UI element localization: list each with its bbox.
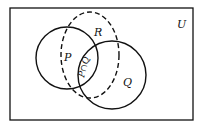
universe-rectangle (10, 8, 193, 120)
set-r-label: R (93, 26, 102, 39)
set-q-label: Q (123, 76, 132, 89)
set-p-label: P (63, 51, 72, 64)
intersection-label: P∩Q (76, 55, 92, 79)
venn-diagram: U P Q R P∩Q (0, 0, 202, 126)
universe-label: U (177, 18, 187, 31)
set-q-circle (78, 41, 146, 109)
